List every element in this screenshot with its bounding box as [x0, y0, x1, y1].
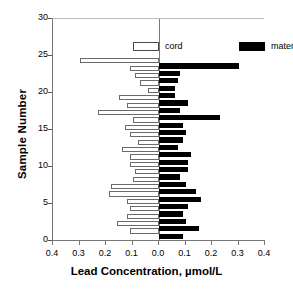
bar-maternal — [159, 234, 183, 239]
y-tick-label: 15 — [26, 124, 48, 133]
bar-maternal — [159, 137, 183, 142]
x-tick-label: 0.4 — [249, 248, 279, 258]
bar-maternal — [159, 197, 201, 202]
plot-area: cordmaternal — [52, 18, 264, 240]
x-tick-label: 0.0 — [143, 248, 173, 258]
x-tick-mark — [211, 240, 212, 245]
chart-container: Sample Number 302520151050 cordmaternal … — [0, 0, 293, 299]
bar-maternal — [159, 167, 188, 172]
bar-row — [53, 58, 265, 68]
y-tick-label: 20 — [26, 87, 48, 96]
bar-maternal — [159, 123, 183, 128]
bar-maternal — [159, 152, 191, 157]
x-tick-mark — [132, 240, 133, 245]
bar-maternal — [159, 174, 180, 179]
x-axis-title: Lead Concentration, µmol/L — [0, 265, 293, 277]
legend-swatch-maternal — [239, 42, 265, 51]
bar-maternal — [159, 226, 199, 231]
x-tick-label: 0.3 — [223, 248, 253, 258]
y-tick-mark — [48, 129, 52, 130]
bar-maternal — [159, 63, 239, 68]
y-tick-mark — [48, 18, 52, 19]
bar-maternal — [159, 115, 220, 120]
x-tick-label: 0.4 — [37, 248, 67, 258]
x-tick-mark — [105, 240, 106, 245]
y-tick-label: 30 — [26, 13, 48, 22]
x-tick-label: 0.3 — [64, 248, 94, 258]
y-tick-label: 10 — [26, 161, 48, 170]
bar-maternal — [159, 93, 175, 98]
bar-maternal — [159, 86, 175, 91]
x-tick-mark — [264, 240, 265, 245]
bar-maternal — [159, 189, 196, 194]
y-tick-mark — [48, 203, 52, 204]
legend-label-maternal: maternal — [271, 41, 293, 52]
bar-maternal — [159, 108, 180, 113]
bar-maternal — [159, 71, 180, 76]
legend-swatch-cord — [133, 42, 159, 51]
legend-label-cord: cord — [165, 41, 183, 52]
x-tick-mark — [185, 240, 186, 245]
bar-maternal — [159, 204, 188, 209]
chart-legend: cordmaternal — [105, 37, 293, 59]
x-tick-mark — [79, 240, 80, 245]
y-tick-label: 25 — [26, 50, 48, 59]
y-tick-mark — [48, 55, 52, 56]
y-tick-label: 5 — [26, 198, 48, 207]
bar-maternal — [159, 100, 188, 105]
y-tick-label: 0 — [26, 235, 48, 244]
bar-maternal — [159, 145, 178, 150]
y-tick-mark — [48, 166, 52, 167]
x-tick-label: 0.1 — [117, 248, 147, 258]
x-tick-mark — [158, 240, 159, 245]
x-tick-label: 0.1 — [170, 248, 200, 258]
bar-maternal — [159, 182, 186, 187]
bar-maternal — [159, 130, 186, 135]
bar-maternal — [159, 78, 178, 83]
x-tick-label: 0.2 — [90, 248, 120, 258]
bar-maternal — [159, 160, 188, 165]
y-tick-mark — [48, 92, 52, 93]
bar-maternal — [159, 211, 183, 216]
bar-maternal — [159, 219, 186, 224]
x-tick-label: 0.2 — [196, 248, 226, 258]
x-tick-mark — [238, 240, 239, 245]
x-tick-mark — [52, 240, 53, 245]
